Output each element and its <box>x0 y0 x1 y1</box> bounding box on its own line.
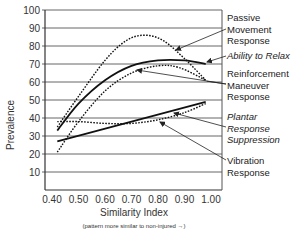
x-axis-title: Similarity Index <box>100 207 168 218</box>
line-chart: 1020304050607080901000.400.500.600.700.8… <box>0 0 293 235</box>
y-tick-label: 20 <box>29 149 41 160</box>
passive-arrow <box>176 29 226 50</box>
plantar-arrow <box>174 113 226 127</box>
y-tick-label: 100 <box>23 5 40 16</box>
reinforcement-maneuver-label: Reinforcement <box>227 68 289 79</box>
plantar-response-label: Plantar <box>227 111 258 122</box>
y-tick-label: 80 <box>29 41 41 52</box>
x-tick-label: 0.90 <box>175 194 195 205</box>
reinforcement-maneuver-label: Response <box>227 91 270 102</box>
reinforcement-maneuver-label: Maneuver <box>227 80 269 91</box>
vibration-response-label: Vibration <box>227 155 264 166</box>
x-tick-label: 0.70 <box>122 194 142 205</box>
y-tick-label: 70 <box>29 59 41 70</box>
y-axis-title: Prevalence <box>5 100 16 150</box>
y-tick-label: 10 <box>29 167 41 178</box>
plantar-response-label: Suppression <box>227 134 280 145</box>
x-tick-label: 0.50 <box>69 194 89 205</box>
x-tick-label: 0.40 <box>42 194 62 205</box>
x-tick-label: 1.00 <box>201 194 221 205</box>
gridlines <box>42 10 222 172</box>
y-tick-label: 90 <box>29 23 41 34</box>
series-labels: PassiveMovementResponseAbility to RelaxR… <box>226 12 291 178</box>
y-tick-label: 60 <box>29 77 41 88</box>
ability-to-relax-label: Ability to Relax <box>226 50 291 61</box>
relax-arrow <box>207 56 226 62</box>
vibration-response-label: Response <box>227 167 270 178</box>
passive-movement-label: Response <box>227 35 270 46</box>
plantar-response-label: Response <box>227 123 270 134</box>
passive-movement-label: Movement <box>227 24 272 35</box>
x-tick-label: 0.80 <box>148 194 168 205</box>
series-line-2 <box>57 65 205 152</box>
annotation-arrows <box>137 29 226 160</box>
y-tick-label: 40 <box>29 113 41 124</box>
data-series <box>57 35 205 152</box>
y-tick-label: 30 <box>29 131 41 142</box>
y-tick-label: 50 <box>29 95 41 106</box>
x-tick-label: 0.60 <box>95 194 115 205</box>
x-axis-note: (pattern more similar to non-injured →) <box>82 223 185 229</box>
passive-movement-label: Passive <box>227 12 260 23</box>
